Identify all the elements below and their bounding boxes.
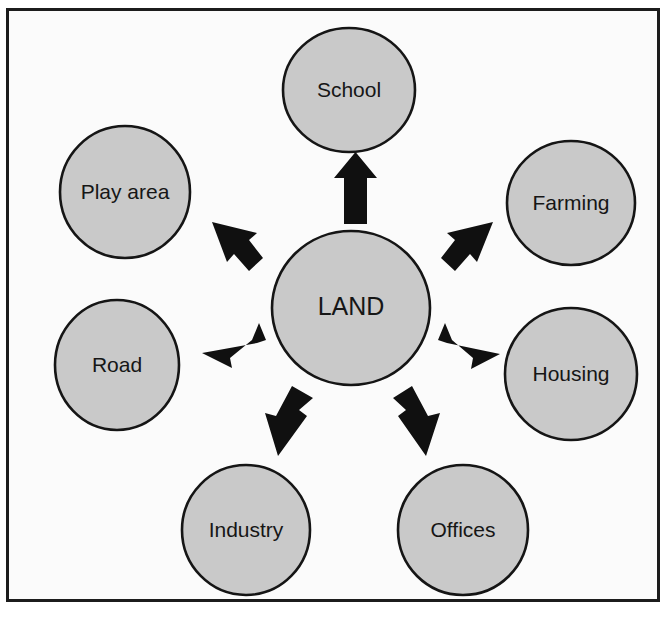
node-industry-label: Industry xyxy=(209,518,284,541)
node-play-area[interactable]: Play area xyxy=(60,126,190,258)
node-school[interactable]: School xyxy=(283,28,415,152)
node-land[interactable]: LAND xyxy=(272,231,430,385)
node-school-label: School xyxy=(317,78,381,101)
node-land-label: LAND xyxy=(318,292,385,320)
node-play-area-label: Play area xyxy=(81,180,170,203)
node-industry[interactable]: Industry xyxy=(182,465,310,595)
diagram-canvas: School Farming Housing Offices Industry xyxy=(0,0,672,618)
node-offices[interactable]: Offices xyxy=(398,465,528,595)
node-housing[interactable]: Housing xyxy=(505,308,637,440)
node-road[interactable]: Road xyxy=(55,300,179,430)
land-uses-diagram: School Farming Housing Offices Industry xyxy=(0,0,672,618)
node-housing-label: Housing xyxy=(532,362,609,385)
node-farming[interactable]: Farming xyxy=(507,141,635,265)
node-road-label: Road xyxy=(92,353,142,376)
node-offices-label: Offices xyxy=(431,518,496,541)
node-farming-label: Farming xyxy=(532,191,609,214)
